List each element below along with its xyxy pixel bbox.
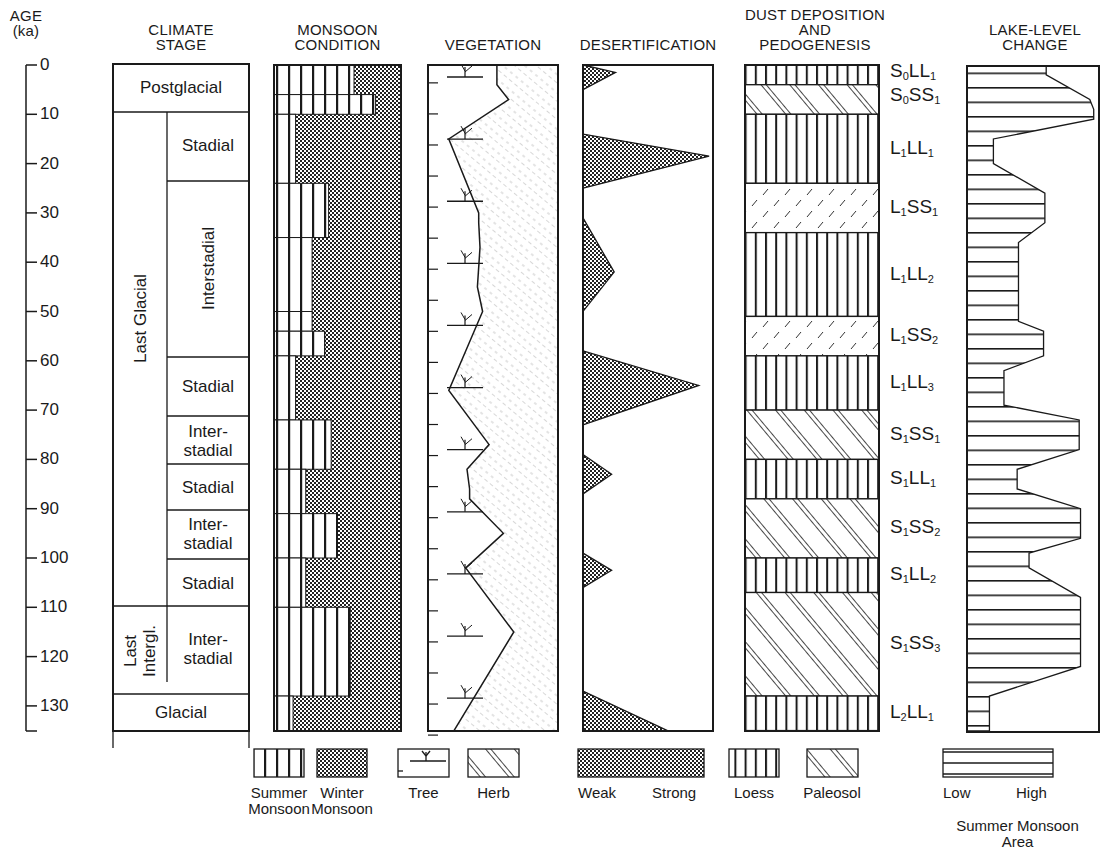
legend-text: Monsoon	[307, 801, 377, 817]
stage-stadial: Stadial	[167, 479, 249, 496]
header-text: VEGETATION	[420, 37, 566, 52]
header-text: DUST DEPOSITION	[735, 7, 895, 22]
layer-code-l2ll1: L2LL1	[890, 703, 934, 720]
age-tick-label: 120	[40, 648, 80, 665]
age-title-text: AGE	[0, 8, 52, 23]
age-tick-label: 110	[40, 598, 80, 615]
legend-lake-swatch	[943, 749, 1053, 777]
age-tick-label: 40	[40, 253, 80, 270]
layer-code-s0ss1: S0SS1	[890, 86, 940, 103]
legend-winter-monsoon-label: Winter Monsoon	[307, 785, 377, 817]
stage-text: Inter-	[167, 422, 249, 441]
age-tick-label: 130	[40, 697, 80, 714]
header-text: CONDITION	[260, 37, 415, 52]
stage-stadial: Stadial	[167, 378, 249, 395]
header-climate-stage: CLIMATE STAGE	[113, 22, 249, 52]
age-tick-label: 100	[40, 549, 80, 566]
lake-level-column	[967, 66, 1099, 732]
stage-interstadial: Inter- stadial	[167, 630, 249, 668]
layer-code-s1ll2: S1LL2	[890, 565, 936, 582]
age-tick-label: 30	[40, 204, 80, 221]
legend-strong-label: Strong	[652, 785, 696, 801]
legend-paleosol-label: Paleosol	[796, 785, 868, 801]
header-text: PEDOGENESIS	[735, 37, 895, 52]
age-tick-label: 10	[40, 105, 80, 122]
layer-code-l1ll1: L1LL1	[890, 139, 934, 156]
header-text: AND	[735, 22, 895, 37]
layer-code-l1ss2: L1SS2	[890, 326, 938, 343]
stage-text: Intergl.	[140, 611, 159, 691]
header-monsoon-condition: MONSOON CONDITION	[260, 22, 415, 52]
stage-stadial: Stadial	[167, 575, 249, 592]
monsoon-condition-column	[274, 65, 401, 731]
header-text: CLIMATE	[113, 22, 249, 37]
header-text: LAKE-LEVEL	[965, 22, 1105, 37]
legend-weak-label: Weak	[578, 785, 616, 801]
stage-interstadial: Inter- stadial	[167, 515, 249, 553]
legend	[254, 749, 1053, 777]
layer-code-s1ss1: S1SS1	[890, 425, 940, 442]
stage-text: Inter-	[167, 630, 249, 649]
vegetation-column	[428, 64, 558, 735]
age-tick-label: 90	[40, 500, 80, 517]
header-text: STAGE	[113, 37, 249, 52]
age-tick-label: 70	[40, 401, 80, 418]
legend-loess-swatch	[729, 749, 779, 777]
legend-text: Area	[925, 834, 1110, 850]
legend-summer-monsoon-label: Summer Monsoon	[244, 785, 314, 817]
age-unit-text: (ka)	[0, 23, 52, 38]
legend-text: Monsoon	[244, 801, 314, 817]
layer-code-s1ss2: S1SS2	[890, 518, 940, 535]
stage-postglacial: Postglacial	[113, 79, 249, 96]
stage-interstadial: Inter- stadial	[167, 422, 249, 460]
layer-code-s1ss3: S1SS3	[890, 634, 940, 651]
header-dust-pedogenesis: DUST DEPOSITION AND PEDOGENESIS	[735, 7, 895, 52]
legend-paleosol-swatch	[807, 749, 858, 777]
legend-desertification-swatch	[578, 749, 704, 777]
legend-tree-swatch	[398, 749, 449, 777]
stage-text: Last	[121, 611, 140, 691]
age-tick-label: 80	[40, 450, 80, 467]
stage-stadial: Stadial	[167, 137, 249, 154]
stage-text: Inter-	[167, 515, 249, 534]
layer-code-l1ss1: L1SS1	[890, 198, 938, 215]
layer-code-l1ll3: L1LL3	[890, 373, 934, 390]
stage-text: stadial	[167, 441, 249, 460]
age-axis-title: AGE (ka)	[0, 8, 52, 38]
legend-summer-monsoon-swatch	[254, 749, 304, 777]
legend-summer-monsoon-area-caption: Summer Monsoon Area	[925, 818, 1110, 850]
header-text: DESERTIFICATION	[563, 37, 733, 52]
legend-herb-label: Herb	[468, 785, 519, 801]
stage-text: stadial	[167, 649, 249, 668]
stage-glacial: Glacial	[113, 704, 249, 721]
header-text: CHANGE	[965, 37, 1105, 52]
legend-text: Summer Monsoon	[925, 818, 1110, 834]
header-desertification: DESERTIFICATION	[563, 37, 733, 52]
legend-loess-label: Loess	[729, 785, 779, 801]
legend-text: Winter	[307, 785, 377, 801]
legend-low-label: Low	[943, 785, 971, 801]
age-axis	[26, 65, 37, 731]
legend-winter-monsoon-swatch	[317, 749, 367, 777]
legend-high-label: High	[1016, 785, 1047, 801]
layer-code-s1ll1: S1LL1	[890, 469, 936, 486]
stage-text: stadial	[167, 534, 249, 553]
layer-code-s0ll1: S0LL1	[890, 62, 936, 79]
legend-text: Summer	[244, 785, 314, 801]
header-text: MONSOON	[260, 22, 415, 37]
age-tick-label: 60	[40, 352, 80, 369]
stage-last-interglacial: Last Intergl.	[121, 611, 159, 691]
desertification-column	[583, 65, 713, 731]
stage-last-glacial: Last Glacial	[132, 259, 149, 379]
header-vegetation: VEGETATION	[420, 37, 566, 52]
age-tick-label: 50	[40, 303, 80, 320]
age-tick-label: 0	[40, 56, 80, 73]
legend-tree-label: Tree	[398, 785, 449, 801]
legend-herb-swatch	[468, 749, 519, 777]
header-lake-level: LAKE-LEVEL CHANGE	[965, 22, 1105, 52]
stage-interstadial: Interstadial	[200, 221, 217, 317]
age-tick-label: 20	[40, 155, 80, 172]
dust-pedogenesis-column	[745, 65, 879, 731]
layer-code-l1ll2: L1LL2	[890, 265, 934, 282]
